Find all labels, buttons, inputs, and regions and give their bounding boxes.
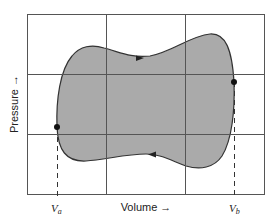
- cycle-region: [57, 34, 234, 168]
- label-va: Va: [51, 202, 62, 216]
- x-axis-label: Volume →: [121, 201, 172, 213]
- point-a: [54, 124, 60, 130]
- label-vb: Vb: [229, 202, 240, 216]
- pv-diagram: Volume → Pressure → Va Vb: [0, 0, 278, 223]
- y-axis-label: Pressure →: [8, 75, 20, 133]
- point-b: [231, 79, 237, 85]
